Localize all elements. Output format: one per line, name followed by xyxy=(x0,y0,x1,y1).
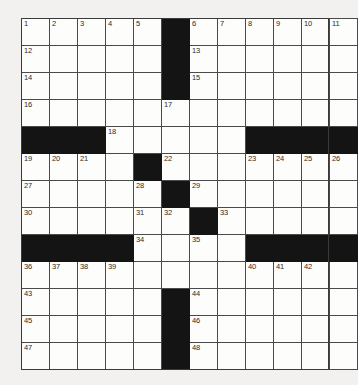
letter-cell[interactable] xyxy=(218,235,246,262)
letter-cell[interactable]: 45 xyxy=(22,316,50,343)
letter-cell[interactable] xyxy=(134,73,162,100)
letter-cell[interactable]: 47 xyxy=(22,343,50,370)
letter-cell[interactable] xyxy=(302,316,330,343)
letter-cell[interactable]: 37 xyxy=(50,262,78,289)
letter-cell[interactable] xyxy=(162,127,190,154)
letter-cell[interactable] xyxy=(50,46,78,73)
letter-cell[interactable]: 32 xyxy=(162,208,190,235)
letter-cell[interactable]: 25 xyxy=(302,154,330,181)
letter-cell[interactable] xyxy=(78,343,106,370)
letter-cell[interactable] xyxy=(190,154,218,181)
letter-cell[interactable] xyxy=(134,46,162,73)
letter-cell[interactable]: 29 xyxy=(190,181,218,208)
letter-cell[interactable] xyxy=(78,316,106,343)
letter-cell[interactable] xyxy=(106,208,134,235)
letter-cell[interactable] xyxy=(218,181,246,208)
letter-cell[interactable] xyxy=(50,208,78,235)
letter-cell[interactable] xyxy=(106,343,134,370)
letter-cell[interactable] xyxy=(106,154,134,181)
letter-cell[interactable] xyxy=(190,262,218,289)
letter-cell[interactable] xyxy=(246,343,274,370)
letter-cell[interactable]: 24 xyxy=(274,154,302,181)
letter-cell[interactable] xyxy=(134,100,162,127)
letter-cell[interactable] xyxy=(274,46,302,73)
letter-cell[interactable] xyxy=(50,100,78,127)
letter-cell[interactable]: 13 xyxy=(190,46,218,73)
letter-cell[interactable] xyxy=(246,289,274,316)
letter-cell[interactable] xyxy=(218,343,246,370)
letter-cell[interactable]: 9 xyxy=(274,19,302,46)
letter-cell[interactable] xyxy=(78,208,106,235)
letter-cell[interactable]: 38 xyxy=(78,262,106,289)
letter-cell[interactable] xyxy=(330,208,358,235)
letter-cell[interactable]: 28 xyxy=(134,181,162,208)
letter-cell[interactable] xyxy=(330,46,358,73)
crossword-table[interactable]: 1234567891011121314151617181920212223242… xyxy=(21,18,358,370)
letter-cell[interactable] xyxy=(106,73,134,100)
letter-cell[interactable] xyxy=(274,316,302,343)
letter-cell[interactable]: 7 xyxy=(218,19,246,46)
letter-cell[interactable] xyxy=(134,289,162,316)
letter-cell[interactable] xyxy=(274,181,302,208)
letter-cell[interactable]: 12 xyxy=(22,46,50,73)
letter-cell[interactable]: 4 xyxy=(106,19,134,46)
letter-cell[interactable] xyxy=(134,262,162,289)
letter-cell[interactable] xyxy=(218,46,246,73)
letter-cell[interactable] xyxy=(274,343,302,370)
letter-cell[interactable] xyxy=(190,127,218,154)
letter-cell[interactable] xyxy=(330,73,358,100)
letter-cell[interactable]: 26 xyxy=(330,154,358,181)
letter-cell[interactable]: 35 xyxy=(190,235,218,262)
letter-cell[interactable] xyxy=(302,100,330,127)
crossword-grid[interactable]: 1234567891011121314151617181920212223242… xyxy=(21,18,329,370)
letter-cell[interactable]: 34 xyxy=(134,235,162,262)
letter-cell[interactable] xyxy=(218,73,246,100)
letter-cell[interactable] xyxy=(106,289,134,316)
letter-cell[interactable]: 43 xyxy=(22,289,50,316)
letter-cell[interactable] xyxy=(330,316,358,343)
letter-cell[interactable]: 19 xyxy=(22,154,50,181)
letter-cell[interactable] xyxy=(134,343,162,370)
letter-cell[interactable] xyxy=(190,100,218,127)
letter-cell[interactable]: 31 xyxy=(134,208,162,235)
letter-cell[interactable] xyxy=(302,343,330,370)
letter-cell[interactable] xyxy=(106,181,134,208)
letter-cell[interactable]: 40 xyxy=(246,262,274,289)
letter-cell[interactable] xyxy=(106,316,134,343)
letter-cell[interactable] xyxy=(246,208,274,235)
letter-cell[interactable] xyxy=(302,46,330,73)
letter-cell[interactable]: 22 xyxy=(162,154,190,181)
letter-cell[interactable] xyxy=(246,73,274,100)
letter-cell[interactable] xyxy=(218,127,246,154)
letter-cell[interactable]: 16 xyxy=(22,100,50,127)
letter-cell[interactable] xyxy=(218,154,246,181)
letter-cell[interactable] xyxy=(162,262,190,289)
letter-cell[interactable] xyxy=(134,316,162,343)
letter-cell[interactable] xyxy=(274,73,302,100)
letter-cell[interactable]: 5 xyxy=(134,19,162,46)
letter-cell[interactable] xyxy=(302,289,330,316)
letter-cell[interactable] xyxy=(50,316,78,343)
letter-cell[interactable] xyxy=(50,289,78,316)
letter-cell[interactable]: 27 xyxy=(22,181,50,208)
letter-cell[interactable] xyxy=(274,289,302,316)
letter-cell[interactable]: 41 xyxy=(274,262,302,289)
letter-cell[interactable] xyxy=(50,181,78,208)
letter-cell[interactable] xyxy=(78,289,106,316)
letter-cell[interactable] xyxy=(330,100,358,127)
letter-cell[interactable] xyxy=(330,343,358,370)
letter-cell[interactable] xyxy=(274,100,302,127)
letter-cell[interactable] xyxy=(50,73,78,100)
letter-cell[interactable]: 23 xyxy=(246,154,274,181)
letter-cell[interactable]: 20 xyxy=(50,154,78,181)
letter-cell[interactable]: 46 xyxy=(190,316,218,343)
letter-cell[interactable] xyxy=(78,46,106,73)
letter-cell[interactable]: 18 xyxy=(106,127,134,154)
letter-cell[interactable]: 33 xyxy=(218,208,246,235)
letter-cell[interactable]: 8 xyxy=(246,19,274,46)
letter-cell[interactable]: 48 xyxy=(190,343,218,370)
letter-cell[interactable]: 39 xyxy=(106,262,134,289)
letter-cell[interactable] xyxy=(134,127,162,154)
letter-cell[interactable] xyxy=(330,181,358,208)
letter-cell[interactable]: 2 xyxy=(50,19,78,46)
